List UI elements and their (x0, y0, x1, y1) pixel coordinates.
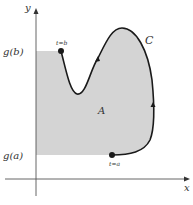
y-axis-arrow-icon (34, 8, 39, 14)
x-axis-arrow-icon (184, 177, 190, 182)
shaded-region-a (36, 28, 154, 155)
start-point-label: t=a (109, 160, 120, 167)
level-g-b-label: g(b) (3, 46, 24, 57)
x-axis-label: x (184, 182, 190, 193)
level-g-a-label: g(a) (3, 150, 23, 161)
parametric-area-diagram: y x g(b) g(a) C A t=a t=b (0, 0, 193, 205)
y-axis-label: y (24, 2, 31, 13)
endpoint-t-a (109, 152, 115, 158)
end-point-label: t=b (56, 39, 67, 46)
endpoint-t-b (58, 48, 64, 54)
region-label: A (97, 105, 105, 116)
curve-label: C (145, 34, 154, 47)
